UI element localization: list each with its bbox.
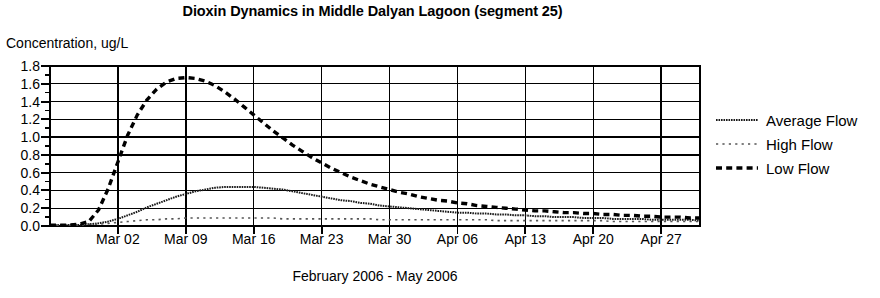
y-tick-label: 1.8 xyxy=(0,59,40,73)
x-tick-label: Mar 09 xyxy=(164,232,208,247)
y-tick-label: 0.8 xyxy=(0,148,40,162)
y-tick-label: 0.4 xyxy=(0,183,40,197)
y-tick-label: 1.2 xyxy=(0,112,40,126)
legend-item-low-flow[interactable]: Low Flow xyxy=(716,156,880,180)
x-tick-label: Mar 16 xyxy=(232,232,276,247)
x-tick-label: Apr 06 xyxy=(437,232,478,247)
dioxin-dynamics-chart: Dioxin Dynamics in Middle Dalyan Lagoon … xyxy=(0,0,880,298)
chart-legend: Average FlowHigh FlowLow Flow xyxy=(716,108,880,180)
legend-line-swatch xyxy=(716,137,758,151)
x-axis-title: February 2006 - May 2006 xyxy=(50,268,700,284)
legend-line-swatch xyxy=(716,161,758,175)
legend-line-swatch xyxy=(716,113,758,127)
y-tick-label: 1.6 xyxy=(0,77,40,91)
y-tick-label: 1.0 xyxy=(0,130,40,144)
legend-label: High Flow xyxy=(766,136,833,153)
legend-item-high-flow[interactable]: High Flow xyxy=(716,132,880,156)
legend-label: Average Flow xyxy=(766,112,857,129)
x-tick-label: Mar 23 xyxy=(300,232,344,247)
y-tick-label: 1.4 xyxy=(0,95,40,109)
x-tick-label: Apr 27 xyxy=(641,232,682,247)
x-tick-label: Mar 02 xyxy=(96,232,140,247)
x-tick-label: Apr 20 xyxy=(573,232,614,247)
x-tick-label: Mar 30 xyxy=(368,232,412,247)
legend-label: Low Flow xyxy=(766,160,829,177)
y-tick-label: 0.0 xyxy=(0,219,40,233)
legend-item-average-flow[interactable]: Average Flow xyxy=(716,108,880,132)
x-tick-label: Apr 13 xyxy=(505,232,546,247)
series-line-low-flow xyxy=(50,78,700,226)
series-line-high-flow xyxy=(50,218,700,225)
y-tick-label: 0.2 xyxy=(0,201,40,215)
y-tick-label: 0.6 xyxy=(0,166,40,180)
